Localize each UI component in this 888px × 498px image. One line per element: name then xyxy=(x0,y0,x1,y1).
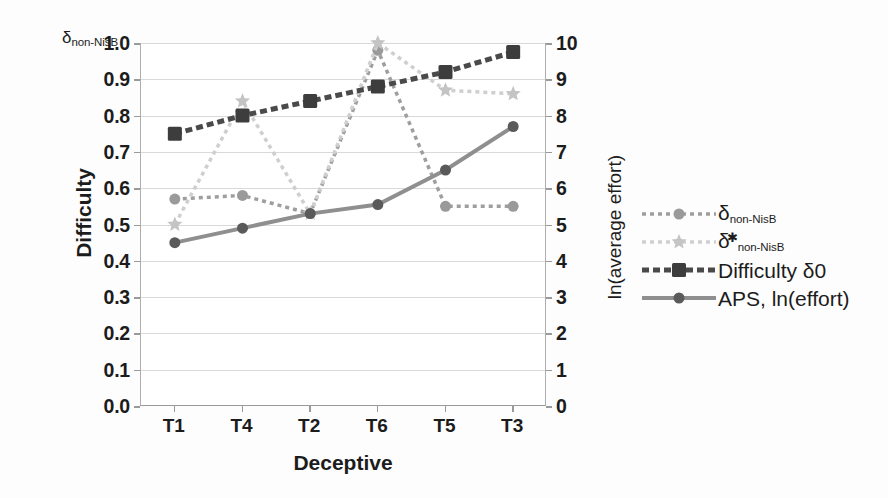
y-axis-left-tick-label: 0.3 xyxy=(78,286,130,309)
y-axis-left-tick-label: 0.0 xyxy=(78,395,130,418)
data-point-marker-star xyxy=(506,86,521,100)
y-axis-right-tick-label: 0 xyxy=(556,395,596,418)
legend-item[interactable]: δ✱non-NisB xyxy=(640,228,880,256)
y-axis-left-tick-label: 0.8 xyxy=(78,104,130,127)
x-axis-tick-mark xyxy=(445,406,447,412)
data-point-marker-circle xyxy=(440,201,451,212)
legend-item[interactable]: APS, ln(effort) xyxy=(640,284,880,312)
data-point-marker-circle xyxy=(169,194,180,205)
chart-root: δnon-NisB Difficulty ln(average effort) … xyxy=(0,0,888,498)
y-axis-left-tick-label: 0.6 xyxy=(78,177,130,200)
y-axis-right-tick-mark xyxy=(546,406,552,408)
data-point-marker-square xyxy=(672,263,686,277)
y-axis-left-tick-label: 0.9 xyxy=(78,68,130,91)
y-axis-right-tick-label: 8 xyxy=(556,104,596,127)
data-point-marker-square xyxy=(303,94,317,108)
data-point-marker-square xyxy=(236,109,250,123)
data-point-marker-star xyxy=(671,234,686,248)
x-axis-tick-label: T2 xyxy=(274,415,344,437)
legend-marker-circle-icon xyxy=(640,203,718,225)
legend-marker-square-icon xyxy=(640,259,718,281)
data-point-marker-circle xyxy=(169,237,180,248)
data-point-marker-star xyxy=(235,93,250,107)
y-axis-right-tick-label: 1 xyxy=(556,358,596,381)
x-axis-tick-mark xyxy=(309,406,311,412)
data-point-marker-circle xyxy=(237,190,248,201)
x-axis-tick-mark xyxy=(512,406,514,412)
x-axis-tick-mark xyxy=(242,406,244,412)
legend-item-label: APS, ln(effort) xyxy=(718,288,850,309)
data-point-marker-circle xyxy=(674,293,685,304)
legend-item[interactable]: Difficulty δ0 xyxy=(640,256,880,284)
data-point-marker-circle xyxy=(508,121,519,132)
x-axis-tick-label: T5 xyxy=(410,415,480,437)
chart-legend: δnon-NisBδ✱non-NisBDifficulty δ0APS, ln(… xyxy=(640,200,880,312)
y-axis-right-title: ln(average effort) xyxy=(604,155,626,299)
data-point-marker-circle xyxy=(237,223,248,234)
y-axis-left-tick-label: 0.2 xyxy=(78,322,130,345)
x-axis-tick-label: T6 xyxy=(342,415,412,437)
legend-marker-circle-icon xyxy=(640,287,718,309)
data-point-marker-circle xyxy=(508,201,519,212)
plot-area xyxy=(140,43,546,406)
series-line xyxy=(175,52,513,134)
data-point-marker-star xyxy=(167,217,182,231)
x-axis-tick-label: T4 xyxy=(207,415,277,437)
y-axis-left-tick-label: 0.7 xyxy=(78,140,130,163)
legend-item-label: Difficulty δ0 xyxy=(718,260,826,281)
y-axis-right-tick-label: 10 xyxy=(556,32,596,55)
legend-item[interactable]: δnon-NisB xyxy=(640,200,880,228)
data-point-marker-circle xyxy=(372,199,383,210)
y-axis-right-tick-label: 9 xyxy=(556,68,596,91)
y-axis-left-tick-label: 0.5 xyxy=(78,213,130,236)
data-point-marker-square xyxy=(439,65,453,79)
x-axis-tick-label: T1 xyxy=(139,415,209,437)
data-point-marker-circle xyxy=(305,208,316,219)
legend-star-superscript: ✱ xyxy=(727,230,738,245)
data-series-layer xyxy=(141,43,547,406)
y-axis-left-tick-label: 1.0 xyxy=(78,32,130,55)
y-axis-left-tick-mark xyxy=(134,406,140,408)
x-axis-tick-mark xyxy=(174,406,176,412)
y-axis-right-tick-label: 3 xyxy=(556,286,596,309)
data-point-marker-circle xyxy=(440,165,451,176)
data-point-marker-square xyxy=(371,80,385,94)
x-axis-tick-mark xyxy=(377,406,379,412)
data-point-marker-square xyxy=(506,45,520,59)
legend-item-label: δnon-NisB xyxy=(718,202,776,225)
series-line xyxy=(175,126,513,242)
y-axis-left-tick-label: 0.1 xyxy=(78,358,130,381)
y-axis-left-tick-label: 0.4 xyxy=(78,249,130,272)
y-axis-right-tick-label: 4 xyxy=(556,249,596,272)
data-point-marker-circle xyxy=(674,209,685,220)
data-point-marker-square xyxy=(168,127,182,141)
legend-item-label: δ✱non-NisB xyxy=(718,230,784,253)
y-axis-right-tick-label: 6 xyxy=(556,177,596,200)
legend-marker-star-icon xyxy=(640,231,718,253)
y-axis-right-tick-label: 7 xyxy=(556,140,596,163)
y-axis-right-tick-label: 2 xyxy=(556,322,596,345)
x-axis-title: Deceptive xyxy=(140,451,546,475)
x-axis-tick-label: T3 xyxy=(477,415,547,437)
y-axis-right-tick-label: 5 xyxy=(556,213,596,236)
